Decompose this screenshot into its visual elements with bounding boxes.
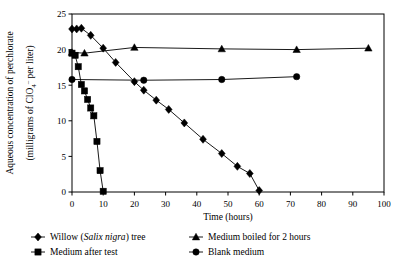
- legend-label-italic-0: Salix nigra: [84, 232, 126, 242]
- x-tick-label-0: 0: [70, 199, 75, 209]
- x-tick-label-70: 70: [286, 199, 296, 209]
- legend-label-pre-0: Willow (: [50, 232, 84, 243]
- legend-marker-square: [35, 249, 41, 255]
- data-point-1-5: [365, 44, 372, 51]
- data-point-2-6: [88, 105, 94, 111]
- x-tick-label-30: 30: [161, 199, 171, 209]
- data-point-0-12: [218, 150, 225, 158]
- legend-label-3: Blank medium: [208, 247, 265, 257]
- data-point-0-13: [234, 162, 241, 170]
- x-tick-label-100: 100: [377, 199, 391, 209]
- legend-marker-diamond: [35, 233, 42, 241]
- x-tick-label-10: 10: [99, 199, 109, 209]
- legend-label-1: Medium boiled for 2 hours: [208, 232, 311, 242]
- y-tick-label-20: 20: [57, 45, 67, 55]
- y-tick-label-15: 15: [57, 81, 67, 91]
- legend-marker-circle: [193, 249, 199, 255]
- data-point-0-10: [181, 119, 188, 127]
- x-tick-label-90: 90: [348, 199, 358, 209]
- y-tick-label-10: 10: [57, 116, 67, 126]
- data-point-2-3: [78, 81, 84, 87]
- data-point-0-8: [153, 96, 160, 104]
- series-1: [68, 44, 372, 56]
- y-tick-label-5: 5: [62, 152, 67, 162]
- x-tick-label-20: 20: [130, 199, 140, 209]
- y-axis-title-line1: Aqueous concentration of perchlorate: [5, 31, 15, 174]
- y-axis-title-formula-suffix: per liter): [25, 45, 36, 80]
- data-point-0-11: [200, 135, 207, 143]
- x-tick-label-50: 50: [224, 199, 234, 209]
- data-point-2-5: [85, 96, 91, 102]
- legend-label-pre-1: Medium boiled for 2 hours: [208, 232, 311, 242]
- data-point-0-9: [165, 105, 172, 113]
- data-point-3-2: [219, 76, 225, 82]
- data-point-0-14: [246, 169, 253, 177]
- legend-label-2: Medium after test: [50, 247, 118, 257]
- plot-frame: [72, 14, 384, 192]
- y-axis-title-line2: (milligrams of ClO4– per liter): [24, 45, 38, 160]
- series-line-3: [72, 77, 297, 81]
- data-point-2-4: [81, 88, 87, 94]
- legend-label-post-0: ) tree: [126, 232, 146, 243]
- chart-figure: 01020304050607080901000510152025Time (ho…: [0, 0, 399, 272]
- x-tick-label-80: 80: [317, 199, 327, 209]
- data-point-2-7: [91, 113, 97, 119]
- chart-legend: Willow (Salix nigra) treeMedium boiled f…: [31, 232, 311, 257]
- data-point-3-1: [141, 77, 147, 83]
- data-point-0-15: [256, 187, 263, 195]
- x-tick-label-40: 40: [192, 199, 202, 209]
- data-point-2-9: [97, 168, 103, 174]
- data-point-0-7: [140, 86, 147, 94]
- y-tick-label-0: 0: [62, 187, 67, 197]
- data-point-3-3: [293, 73, 299, 79]
- data-point-2-8: [94, 138, 100, 144]
- y-axis-title-formula-prefix: (milligrams of ClO: [25, 88, 36, 161]
- series-3: [69, 73, 300, 83]
- y-tick-label-25: 25: [57, 9, 67, 19]
- perchlorate-concentration-chart: 01020304050607080901000510152025Time (ho…: [0, 0, 399, 272]
- data-point-0-2: [78, 24, 85, 32]
- data-point-2-10: [100, 188, 106, 194]
- x-axis-title: Time (hours): [203, 212, 253, 223]
- x-tick-label-60: 60: [255, 199, 265, 209]
- legend-label-pre-3: Blank medium: [208, 247, 265, 257]
- data-point-2-1: [72, 52, 78, 58]
- data-point-3-0: [69, 76, 75, 82]
- series-2: [69, 50, 106, 194]
- legend-label-0: Willow (Salix nigra) tree: [50, 232, 145, 243]
- legend-label-pre-2: Medium after test: [50, 247, 118, 257]
- data-point-2-2: [75, 64, 81, 70]
